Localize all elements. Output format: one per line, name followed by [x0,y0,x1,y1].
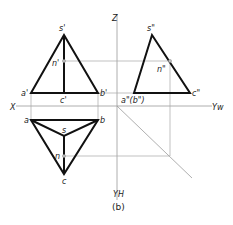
side-view-triangle [134,35,190,93]
label-b-front: b' [100,89,107,98]
label-a-front: a' [21,89,28,98]
label-n-top: n [55,152,60,161]
point-n-side [168,59,171,62]
label-c-top: c [62,177,67,186]
figure-caption: (b) [112,202,125,212]
top-view: a b s n c [24,116,105,186]
45-degree-line [117,106,192,178]
front-view: s' n' a' b' c' [21,24,107,105]
projection-lines [31,61,170,156]
label-c-front: c' [60,96,67,105]
label-c-side: c" [192,89,200,98]
label-yw-axis: Yw [212,103,224,112]
label-s-top: s [62,126,66,135]
label-n-side: n" [157,65,166,74]
label-x-axis: X [9,103,16,112]
label-yh-axis: YH [113,190,124,199]
label-s-front: s' [59,24,65,33]
projection-axes [16,14,212,200]
label-z-axis: Z [111,14,118,23]
point-n-top [62,154,65,157]
point-n-front [62,59,65,62]
label-a-top: a [24,116,29,125]
label-n-front: n' [52,59,59,68]
label-s-side: s" [147,24,155,33]
label-b-top: b [100,116,105,125]
label-ab-side: a"(b") [121,96,145,105]
three-view-projection-diagram: s' n' a' b' c' s" n" a"(b") c" a b s n c… [0,0,233,225]
